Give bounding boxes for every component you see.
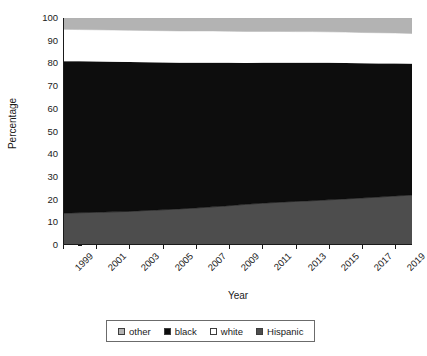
- stacked-area-svg: [63, 18, 412, 245]
- x-tick-label: 2019: [406, 251, 427, 273]
- x-tick-label: 2007: [206, 251, 228, 273]
- x-tick-mark: [96, 245, 97, 249]
- y-axis-label: Percentage: [7, 79, 18, 169]
- x-tick-mark: [163, 245, 164, 249]
- area-series-white: [63, 29, 412, 63]
- x-tick-mark: [362, 245, 363, 249]
- y-tick-label: 90: [24, 36, 58, 46]
- y-tick-label: 30: [24, 172, 58, 182]
- x-tick-mark: [129, 245, 130, 249]
- x-tick-mark: [262, 245, 263, 249]
- legend-item-white[interactable]: white: [210, 326, 243, 337]
- y-tick-label: 0: [24, 240, 58, 250]
- x-tick-label: 2003: [140, 251, 162, 273]
- x-tick-label: 2017: [372, 251, 394, 273]
- x-tick-mark: [296, 245, 297, 249]
- legend-swatch-icon: [210, 328, 217, 335]
- y-tick-label: 10: [24, 217, 58, 227]
- chart-legend: otherblackwhiteHispanic: [106, 320, 315, 342]
- y-tick-label: 70: [24, 81, 58, 91]
- y-tick-label: 80: [24, 58, 58, 68]
- y-tick-label: 40: [24, 149, 58, 159]
- x-tick-label: 2015: [339, 251, 361, 273]
- legend-item-label: white: [221, 326, 243, 337]
- x-tick-mark: [196, 245, 197, 249]
- legend-swatch-icon: [164, 328, 171, 335]
- legend-item-black[interactable]: black: [164, 326, 197, 337]
- chart-figure: Percentage 0102030405060708090100 199920…: [0, 0, 427, 356]
- x-tick-label: 2013: [306, 251, 328, 273]
- y-tick-mark: [78, 245, 82, 246]
- legend-item-hispanic[interactable]: Hispanic: [256, 326, 303, 337]
- x-tick-label: 2009: [239, 251, 261, 273]
- x-tick-mark: [329, 245, 330, 249]
- y-tick-label: 50: [24, 127, 58, 137]
- x-tick-label: 2011: [272, 251, 293, 272]
- x-axis-label: Year: [63, 290, 413, 301]
- plot-area: [63, 18, 412, 245]
- legend-item-label: other: [129, 326, 151, 337]
- area-series-black: [63, 61, 412, 213]
- y-tick-label: 60: [24, 104, 58, 114]
- legend-swatch-icon: [256, 328, 263, 335]
- y-tick-label: 20: [24, 195, 58, 205]
- legend-item-label: Hispanic: [267, 326, 303, 337]
- legend-item-label: black: [175, 326, 197, 337]
- legend-item-other[interactable]: other: [118, 326, 151, 337]
- x-tick-mark: [229, 245, 230, 249]
- x-tick-mark: [395, 245, 396, 249]
- y-tick-label: 100: [24, 13, 58, 23]
- x-tick-mark: [63, 245, 64, 249]
- x-tick-label: 2005: [173, 251, 195, 273]
- legend-swatch-icon: [118, 328, 125, 335]
- y-axis-ticks: 0102030405060708090100: [20, 0, 58, 356]
- x-tick-label: 1999: [73, 251, 95, 273]
- x-tick-label: 2001: [106, 251, 128, 273]
